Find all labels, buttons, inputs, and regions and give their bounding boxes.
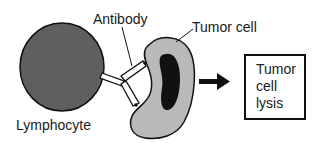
result-box-text: Tumor cell lysis <box>256 61 296 112</box>
tumor-cell-label: Tumor cell <box>192 19 257 35</box>
antibody-label: Antibody <box>93 11 147 27</box>
result-line: lysis <box>256 95 296 112</box>
antibody-binding-dot <box>134 103 138 107</box>
arrow-icon <box>199 73 230 90</box>
result-line: Tumor <box>256 61 296 78</box>
tumor-cell-leader-line <box>176 29 193 42</box>
antibody <box>100 61 146 106</box>
lymphocyte-label: Lymphocyte <box>16 117 91 133</box>
antibody-binding-dot <box>143 61 147 65</box>
antibody-leader-line <box>122 27 132 66</box>
result-line: cell <box>256 78 296 95</box>
lymphocyte-cell <box>20 23 104 111</box>
result-box: Tumor cell lysis <box>244 54 306 120</box>
